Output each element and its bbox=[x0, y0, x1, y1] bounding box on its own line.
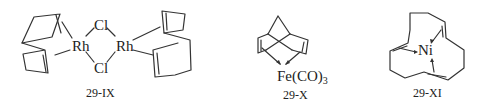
structure-label-29-IX: 29-IX bbox=[86, 86, 115, 100]
structure-29-X: Fe(CO)3 29-X bbox=[258, 16, 328, 102]
structure-29-IX: Rh Rh Cl Cl 29-IX bbox=[22, 11, 191, 100]
bond-cod-rh-left-1 bbox=[62, 22, 72, 38]
rh-atom-right: Rh bbox=[116, 38, 134, 54]
bond-cod-rh-right-2 bbox=[133, 50, 153, 55]
cod-ring-right bbox=[153, 11, 191, 77]
cod-ring-left bbox=[22, 14, 61, 73]
bond-cod-rh-right-1 bbox=[133, 27, 160, 40]
structure-figure: Rh Rh Cl Cl 29-IX bbox=[0, 0, 487, 107]
fe-co-group: Fe(CO)3 bbox=[277, 68, 328, 86]
bond-cod-rh-left-2 bbox=[55, 50, 70, 55]
structure-29-XI: Ni 29-XI bbox=[390, 13, 464, 100]
cl-atom-top: Cl bbox=[94, 17, 108, 33]
structure-label-29-X: 29-X bbox=[283, 88, 308, 102]
structure-label-29-XI: 29-XI bbox=[413, 86, 442, 100]
rh-atom-left: Rh bbox=[72, 38, 90, 54]
ni-atom: Ni bbox=[418, 42, 433, 58]
cl-atom-bottom: Cl bbox=[94, 60, 108, 76]
